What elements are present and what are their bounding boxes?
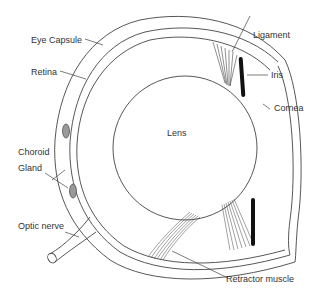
lower-ligament-fibers	[222, 199, 254, 250]
iris-upper	[239, 57, 246, 97]
label-ligament: Ligament	[253, 30, 290, 40]
label-retractor-muscle: Retractor muscle	[226, 274, 294, 284]
label-retina: Retina	[31, 67, 57, 77]
label-lens: Lens	[167, 128, 187, 138]
lens	[113, 76, 257, 220]
iris-lower	[251, 198, 255, 246]
choroid-gland-lower	[70, 184, 77, 198]
label-iris: Iris	[271, 70, 283, 80]
cornea-inner	[278, 66, 293, 255]
label-choroid-gland-line2: Gland	[18, 163, 42, 173]
label-optic-nerve: Optic nerve	[18, 221, 64, 231]
optic-nerve-lower	[55, 232, 96, 262]
eye-diagram: Eye Capsule Retina Choroid Gland Optic n…	[0, 0, 316, 295]
choroid-gland-upper	[63, 124, 70, 138]
label-cornea: Cornea	[274, 103, 304, 113]
leader-lines	[45, 16, 270, 278]
label-eye-capsule: Eye Capsule	[31, 35, 82, 45]
label-choroid-gland-line1: Choroid	[18, 147, 50, 157]
